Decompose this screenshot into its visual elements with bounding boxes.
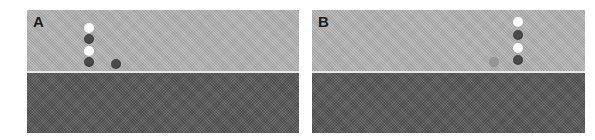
white-dot xyxy=(84,23,94,33)
panel-a: A xyxy=(27,10,299,133)
white-dot xyxy=(513,17,523,27)
white-dot xyxy=(84,46,94,56)
lower-region xyxy=(27,73,299,133)
white-dot xyxy=(513,43,523,53)
lower-region xyxy=(312,73,585,133)
dark-dot xyxy=(513,30,523,40)
dark-dot xyxy=(84,57,94,67)
panel-b: B xyxy=(312,10,585,133)
upper-region xyxy=(312,10,585,71)
panel-label: B xyxy=(318,13,329,30)
dark-dot xyxy=(513,55,523,65)
dark-dot xyxy=(84,34,94,44)
dark-dot xyxy=(111,59,121,69)
upper-region xyxy=(27,10,299,71)
panel-label: A xyxy=(33,13,44,30)
gray-dot xyxy=(489,57,499,67)
